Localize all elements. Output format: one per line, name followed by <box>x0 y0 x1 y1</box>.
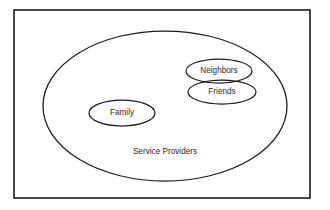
label-family: Family <box>110 108 135 117</box>
venn-diagram-svg: Service Providers Family Neighbors Frien… <box>0 0 330 210</box>
label-friends: Friends <box>208 87 235 96</box>
outer-border <box>14 10 310 198</box>
label-service-providers: Service Providers <box>133 147 197 156</box>
label-neighbors: Neighbors <box>200 66 237 75</box>
diagram-canvas: Service Providers Family Neighbors Frien… <box>0 0 330 210</box>
